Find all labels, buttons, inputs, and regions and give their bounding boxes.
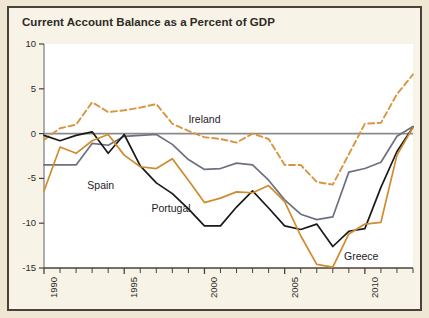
series-line-greece [44, 127, 413, 267]
series-line-ireland [44, 74, 413, 184]
y-tick-label: 5 [10, 83, 36, 94]
axes [39, 44, 413, 274]
x-tick-label: 2000 [208, 277, 219, 298]
series-lines [44, 74, 413, 267]
x-tick-label: 1990 [48, 277, 59, 298]
y-tick-label: 0 [10, 128, 36, 139]
y-tick-label: -15 [10, 262, 36, 273]
series-label-spain: Spain [87, 179, 114, 191]
y-tick-label: -10 [10, 217, 36, 228]
x-tick-label: 1995 [128, 277, 139, 298]
y-tick-label: 10 [10, 38, 36, 49]
y-tick-label: -5 [10, 172, 36, 183]
series-label-ireland: Ireland [188, 113, 220, 125]
chart-svg [0, 0, 429, 318]
series-label-greece: Greece [344, 250, 378, 262]
figure-container: Current Account Balance as a Percent of … [0, 0, 429, 318]
series-label-portugal: Portugal [151, 202, 190, 214]
x-tick-label: 2010 [369, 277, 380, 298]
x-tick-label: 2005 [289, 277, 300, 298]
